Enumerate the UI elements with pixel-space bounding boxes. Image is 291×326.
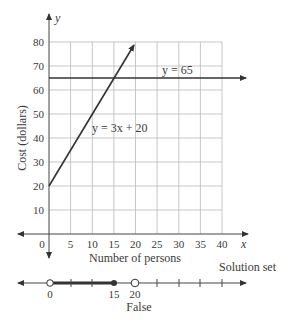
- nl-label: 20: [130, 288, 142, 300]
- solution-set-title: Solution set: [219, 260, 277, 274]
- y-tick: 30: [33, 156, 45, 168]
- y-tick: 60: [33, 84, 45, 96]
- chart-canvas: 10 20 30 40 50 60 70 80 0 5 10 15 20 25 …: [0, 0, 291, 326]
- y-tick: 20: [33, 180, 45, 192]
- y-axis-title: Cost (dollars): [15, 105, 29, 171]
- y-tick: 50: [33, 108, 45, 120]
- false-caption: False: [126, 300, 151, 314]
- x-tick: 15: [108, 238, 120, 250]
- x-tick-labels: 0 5 10 15 20 25 30 35 40: [39, 238, 228, 250]
- x-tick: 0: [39, 238, 45, 250]
- x-tick: 20: [130, 238, 142, 250]
- open-point-20: [131, 279, 139, 287]
- grid: [49, 42, 222, 234]
- x-tick: 5: [68, 238, 74, 250]
- annotation-y65: y = 65: [162, 63, 193, 77]
- nl-label: 0: [47, 288, 53, 300]
- annotation-y3x20: y = 3x + 20: [92, 121, 148, 135]
- x-tick: 30: [173, 238, 185, 250]
- x-axis-symbol: x: [240, 237, 247, 251]
- open-point-0: [47, 280, 54, 287]
- closed-point-15: [111, 280, 117, 286]
- y-tick: 70: [33, 60, 45, 72]
- y-axis-symbol: y: [54, 11, 61, 25]
- x-axis-title: Number of persons: [89, 251, 181, 265]
- x-tick: 25: [152, 238, 164, 250]
- y-tick-labels: 10 20 30 40 50 60 70 80: [33, 36, 45, 216]
- y-tick: 10: [33, 204, 45, 216]
- solution-number-line: Solution set 0 15 20 False: [18, 260, 277, 314]
- y-tick: 40: [33, 132, 45, 144]
- x-tick: 10: [87, 238, 99, 250]
- nl-label: 15: [109, 288, 121, 300]
- x-tick: 40: [217, 238, 229, 250]
- y-tick: 80: [33, 36, 45, 48]
- x-tick: 35: [195, 238, 207, 250]
